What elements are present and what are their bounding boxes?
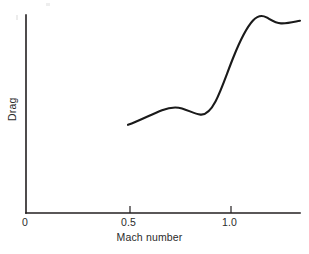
- drag-mach-chart-figure: 0 0.5 1.0 Mach number Drag: [0, 0, 309, 254]
- chart-canvas: [0, 0, 309, 254]
- y-axis-label: Drag: [7, 81, 18, 137]
- drag-curve: [128, 16, 300, 125]
- x-tick-label-1.0: 1.0: [222, 217, 237, 228]
- x-axis-label-text: Mach number: [117, 232, 183, 243]
- scan-speck: [16, 15, 18, 20]
- scan-speck: [46, 3, 50, 6]
- x-tick-label-0: 0: [22, 217, 28, 228]
- x-tick-label-0.5: 0.5: [121, 217, 136, 228]
- x-axis-label: Mach number: [0, 232, 309, 243]
